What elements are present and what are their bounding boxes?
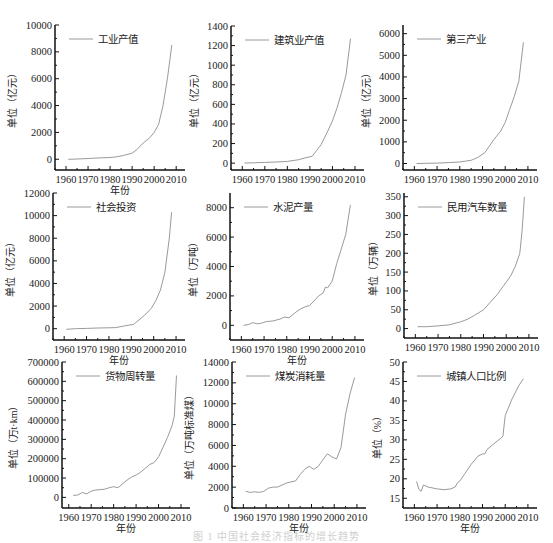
y-axis-label: 单位（亿元） — [188, 68, 200, 128]
subplot-civil-vehicles: 0501001502002503003501960197019801990200… — [367, 191, 540, 353]
y-tick-label: 2000 — [208, 482, 229, 493]
x-tick-label: 1960 — [404, 174, 425, 185]
y-tick-label: 8000 — [29, 233, 50, 244]
series-line — [66, 212, 171, 329]
x-tick-label: 1980 — [449, 512, 470, 523]
chart-canvas: 0200040006000800010000196019701980199020… — [0, 0, 553, 543]
series-line — [245, 39, 351, 163]
y-tick-label: 8000 — [208, 419, 229, 430]
series-line — [244, 205, 351, 325]
y-tick-label: 1000 — [379, 136, 400, 147]
legend-label: 社会投资 — [96, 201, 136, 213]
y-axis-label: 单位（万吨） — [187, 237, 199, 297]
y-tick-label: 15 — [390, 493, 401, 504]
y-tick-label: 30 — [390, 434, 401, 445]
x-tick-label: 1990 — [301, 512, 322, 523]
y-tick-label: 2000 — [29, 301, 50, 312]
y-axis-label: 单位（亿元） — [4, 237, 16, 297]
subplot-cement-production: 0200040006000800019601970198019902000201… — [187, 193, 366, 366]
y-tick-label: 0 — [223, 158, 228, 169]
x-tick-label: 1990 — [473, 342, 494, 353]
x-tick-label: 1960 — [54, 344, 75, 355]
y-tick-label: 2000 — [206, 290, 227, 301]
y-tick-label: 12000 — [24, 188, 50, 199]
y-tick-label: 700000 — [28, 357, 60, 368]
y-tick-label: 200 — [212, 138, 228, 149]
y-tick-label: 8000 — [31, 46, 52, 57]
subplot-construction-output: 0200400600800100012001400196019701980199… — [188, 21, 366, 186]
y-tick-label: 14000 — [203, 357, 229, 368]
y-tick-label: 4000 — [208, 461, 229, 472]
subplot-coal-consumption: 0200040006000800010000120001400019601970… — [183, 357, 367, 535]
y-tick-label: 4000 — [31, 100, 52, 111]
x-tick-label: 2010 — [518, 342, 539, 353]
y-tick-label: 6000 — [206, 232, 227, 243]
y-tick-label: 0 — [47, 154, 52, 165]
y-tick-label: 4000 — [206, 261, 227, 272]
x-tick-label: 2010 — [346, 512, 367, 523]
legend-label: 煤炭消耗量 — [275, 370, 326, 382]
x-tick-label: 1990 — [472, 174, 493, 185]
x-tick-label: 2000 — [322, 174, 343, 185]
y-tick-label: 1400 — [207, 21, 228, 32]
y-tick-label: 400 — [212, 118, 228, 129]
y-tick-label: 500000 — [28, 395, 60, 406]
y-tick-label: 0 — [45, 323, 50, 334]
x-tick-label: 1990 — [299, 174, 320, 185]
y-tick-label: 800 — [212, 79, 228, 90]
y-tick-label: 50 — [390, 357, 401, 368]
series-line — [418, 197, 525, 327]
x-tick-label: 2000 — [495, 174, 516, 185]
x-axis-label: 年份 — [109, 354, 129, 366]
x-tick-label: 1980 — [278, 512, 299, 523]
legend-label: 第三产业 — [446, 33, 486, 45]
y-tick-label: 12000 — [203, 377, 229, 388]
series-line — [417, 42, 524, 163]
x-tick-label: 1990 — [472, 512, 493, 523]
y-tick-label: 0 — [54, 492, 59, 503]
x-tick-label: 2000 — [495, 512, 516, 523]
y-tick-label: 600 — [212, 99, 228, 110]
legend-label: 城镇人口比例 — [446, 370, 506, 382]
y-tick-label: 25 — [390, 454, 401, 465]
y-tick-label: 35 — [390, 415, 401, 426]
x-tick-label: 2010 — [166, 344, 187, 355]
x-tick-label: 1970 — [81, 512, 102, 523]
x-tick-label: 2000 — [322, 344, 343, 355]
legend-label: 工业产值 — [98, 33, 139, 45]
subplot-urban-population-ratio: 1520253035404550196019701980199020002010… — [371, 357, 538, 535]
legend-label: 水泥产量 — [273, 201, 314, 213]
y-tick-label: 100000 — [28, 473, 60, 484]
series-line — [246, 378, 355, 493]
x-axis-label: 年份 — [287, 354, 307, 366]
legend-label: 建筑业产值 — [274, 34, 325, 46]
x-tick-label: 1960 — [233, 512, 254, 523]
x-tick-label: 1960 — [58, 512, 79, 523]
x-tick-label: 1970 — [254, 344, 275, 355]
x-tick-label: 1990 — [299, 344, 320, 355]
x-tick-label: 1970 — [427, 174, 448, 185]
x-tick-label: 1980 — [103, 512, 124, 523]
x-tick-label: 1960 — [404, 512, 425, 523]
y-axis-label: 单位（亿元） — [6, 68, 18, 128]
x-tick-label: 1980 — [449, 174, 470, 185]
x-tick-label: 1980 — [276, 344, 297, 355]
y-tick-label: 0 — [396, 323, 401, 334]
y-tick-label: 400000 — [28, 415, 60, 426]
y-tick-label: 6000 — [379, 28, 400, 39]
x-tick-label: 1980 — [277, 174, 298, 185]
y-axis-label: 单位（万t·km） — [7, 401, 19, 470]
y-tick-label: 20 — [390, 473, 401, 484]
x-tick-label: 2000 — [324, 512, 345, 523]
x-tick-label: 1960 — [232, 174, 253, 185]
y-axis-label: 单位（万辆） — [367, 236, 379, 296]
y-tick-label: 2000 — [379, 115, 400, 126]
y-tick-label: 5000 — [379, 50, 400, 61]
legend-label: 货物周转量 — [105, 370, 156, 382]
x-tick-label: 1990 — [126, 512, 147, 523]
series-line — [68, 45, 172, 159]
y-axis-label: 单位（%） — [371, 411, 383, 459]
y-tick-label: 0 — [395, 158, 400, 169]
x-tick-label: 1960 — [56, 174, 77, 185]
y-tick-label: 10000 — [203, 398, 229, 409]
